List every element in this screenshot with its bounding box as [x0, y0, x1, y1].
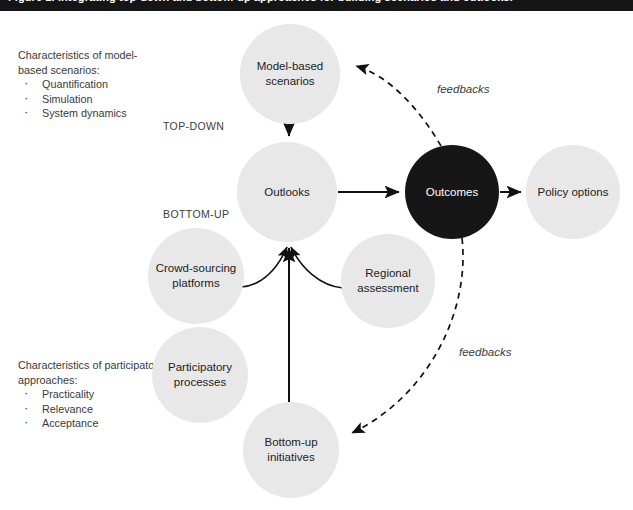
node-crowd-sourcing-platforms-circle	[148, 228, 244, 324]
node-model-based-scenarios-circle	[240, 24, 340, 124]
node-regional-assessment[interactable]: Regional assessment	[341, 234, 435, 328]
node-outlooks-label: Outlooks	[264, 186, 310, 198]
node-participatory-processes-circle	[152, 327, 248, 423]
node-participatory-processes-label-line2: processes	[174, 376, 227, 388]
link-regional-to-outlooks	[291, 247, 343, 288]
node-outcomes[interactable]: Outcomes	[405, 145, 499, 239]
node-regional-assessment-label-line1: Regional	[365, 267, 410, 279]
label-feedbacks-upper: feedbacks	[437, 83, 490, 95]
node-participatory-processes-label-line1: Participatory	[168, 361, 232, 373]
figure-container: Figure 1. Integrating top-down and botto…	[0, 0, 633, 510]
node-model-based-scenarios-label-line1: Model-based	[257, 60, 323, 72]
node-crowd-sourcing-platforms-label-line2: platforms	[172, 277, 220, 289]
label-feedbacks-lower: feedbacks	[459, 346, 512, 358]
diagram-canvas: Model-based scenarios Outlooks Outcomes …	[0, 0, 633, 510]
node-bottom-up-initiatives-circle	[243, 402, 339, 498]
node-bottom-up-initiatives[interactable]: Bottom-up initiatives	[243, 402, 339, 498]
node-crowd-sourcing-platforms-label-line1: Crowd-sourcing	[156, 262, 237, 274]
node-bottom-up-initiatives-label-line2: initiatives	[267, 451, 315, 463]
node-outlooks[interactable]: Outlooks	[237, 142, 337, 242]
node-policy-options[interactable]: Policy options	[526, 145, 620, 239]
node-regional-assessment-circle	[341, 234, 435, 328]
node-bottom-up-initiatives-label-line1: Bottom-up	[264, 436, 317, 448]
label-bottom-up: BOTTOM-UP	[163, 208, 229, 220]
node-model-based-scenarios-label-line2: scenarios	[265, 75, 314, 87]
link-crowdsourcing-to-outlooks	[241, 247, 287, 287]
node-crowd-sourcing-platforms[interactable]: Crowd-sourcing platforms	[148, 228, 244, 324]
node-model-based-scenarios[interactable]: Model-based scenarios	[240, 24, 340, 124]
node-policy-options-label: Policy options	[538, 186, 609, 198]
label-top-down: TOP-DOWN	[163, 120, 224, 132]
link-feedback-upper	[356, 66, 441, 146]
node-participatory-processes[interactable]: Participatory processes	[152, 327, 248, 423]
node-outcomes-label: Outcomes	[426, 186, 479, 198]
node-regional-assessment-label-line2: assessment	[357, 282, 419, 294]
